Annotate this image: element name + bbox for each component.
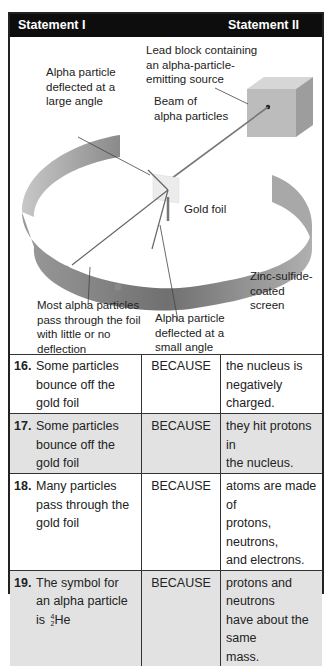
rutherford-experiment-diagram: Lead block containing an alpha-particle-… [10, 37, 322, 355]
label-beam: Beam of alpha particles [154, 94, 228, 123]
table-header: Statement I Statement II [10, 14, 322, 37]
question-number: 17. [14, 417, 31, 436]
connector-cell: BECAUSE [142, 354, 221, 414]
statement-ii-cell: the nucleus is negatively charged. [221, 354, 323, 414]
question-number: 19. [14, 574, 31, 593]
statement-i-cell: 17. Some particles bounce off the gold f… [10, 414, 142, 474]
question-row-19: 19. The symbol for an alpha particle is … [10, 570, 322, 666]
label-large-angle: Alpha particle deflected at a large angl… [46, 65, 116, 109]
label-small-angle: Alpha particle deflected at a small angl… [155, 311, 225, 355]
header-statement-ii: Statement II [228, 18, 299, 32]
statement-i-cell: 18. Many particles pass through the gold… [10, 474, 142, 571]
label-screen: Zinc-sulfide- coated screen [250, 269, 322, 313]
label-lead-block: Lead block containing an alpha-particle-… [146, 43, 257, 87]
question-row-18: 18. Many particles pass through the gold… [10, 474, 322, 571]
statement-ii-cell: protons and neutrons have about the same… [221, 570, 323, 666]
question-row-16: 16. Some particles bounce off the gold f… [10, 354, 322, 414]
screen-back-right [272, 175, 312, 249]
screen-back-left [22, 135, 120, 217]
connector-cell: BECAUSE [142, 474, 221, 571]
connector-cell: BECAUSE [142, 570, 221, 666]
connector-cell: BECAUSE [142, 414, 221, 474]
statement-ii-cell: they hit protons in the nucleus. [221, 414, 323, 474]
questions-table: 16. Some particles bounce off the gold f… [10, 354, 322, 666]
label-most-pass: Most alpha particles pass through the fo… [37, 298, 141, 356]
header-statement-i: Statement I [18, 18, 85, 32]
statement-ii-cell: atoms are made of protons, neutrons, and… [221, 474, 323, 571]
statement-table-frame: Statement I Statement II [8, 12, 324, 594]
question-number: 18. [14, 477, 31, 496]
label-gold-foil: Gold foil [184, 202, 226, 217]
statement-i-cell: 16. Some particles bounce off the gold f… [10, 354, 142, 414]
statement-i-cell: 19. The symbol for an alpha particle is … [10, 570, 142, 666]
question-number: 16. [14, 357, 31, 376]
question-row-17: 17. Some particles bounce off the gold f… [10, 414, 322, 474]
